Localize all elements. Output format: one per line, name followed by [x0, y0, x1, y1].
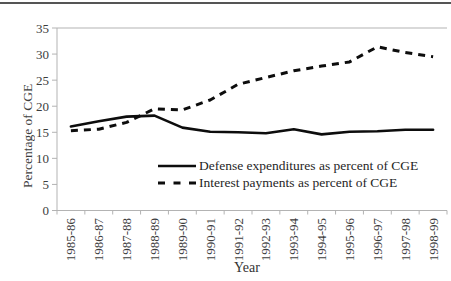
series-line-defense: [71, 116, 433, 135]
legend-label-interest: Interest payments as percent of CGE: [199, 175, 397, 191]
x-tick-label: 1987-88: [119, 218, 134, 261]
y-axis-title: Percentage of CGE: [20, 70, 37, 202]
x-tick-label: 1995-96: [342, 218, 357, 262]
y-tick-label: 10: [36, 151, 49, 166]
x-tick-label: 1991-92: [231, 218, 246, 261]
chart-figure: 051015202530351985-861986-871987-881988-…: [0, 0, 451, 281]
x-tick-label: 1990-91: [203, 218, 218, 261]
y-tick-label: 35: [36, 21, 49, 36]
solid-line-sample: [157, 162, 197, 170]
y-tick-label: 5: [43, 177, 50, 192]
y-tick-label: 30: [36, 47, 49, 62]
x-tick-label: 1985-86: [63, 218, 78, 262]
x-tick-label: 1993-94: [286, 218, 301, 262]
dashed-line-sample: [157, 179, 197, 187]
y-tick-label: 25: [36, 73, 49, 88]
plot-area: 051015202530351985-861986-871987-881988-…: [0, 0, 451, 281]
x-tick-label: 1989-90: [175, 218, 190, 261]
legend: Defense expenditures as percent of CGE I…: [157, 157, 418, 191]
x-tick-label: 1986-87: [91, 218, 106, 262]
legend-item-defense: Defense expenditures as percent of CGE: [157, 157, 418, 174]
x-tick-label: 1994-95: [314, 218, 329, 261]
legend-item-interest: Interest payments as percent of CGE: [157, 174, 418, 191]
x-tick-label: 1996-97: [370, 218, 385, 262]
x-axis-title: Year: [57, 260, 437, 276]
x-tick-label: 1998-99: [426, 218, 441, 261]
y-tick-label: 15: [36, 125, 49, 140]
x-tick-label: 1997-98: [398, 218, 413, 261]
x-tick-label: 1992-93: [258, 218, 273, 261]
legend-label-defense: Defense expenditures as percent of CGE: [199, 158, 418, 174]
y-tick-label: 0: [43, 203, 50, 218]
x-tick-label: 1988-89: [147, 218, 162, 261]
y-tick-label: 20: [36, 99, 49, 114]
